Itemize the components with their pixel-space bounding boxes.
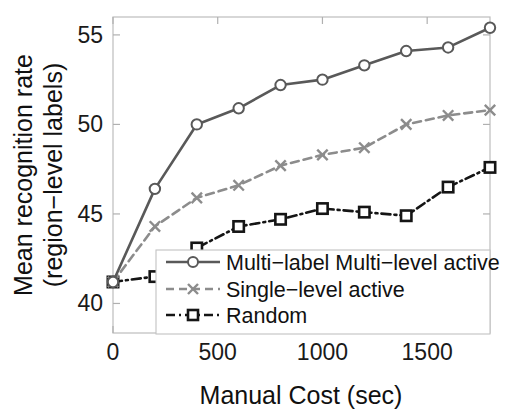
circle-marker [192, 119, 202, 129]
circle-marker [108, 277, 118, 287]
y-axis-tick-labels: 40455055 [77, 22, 103, 317]
circle-marker [485, 23, 495, 33]
circle-marker [317, 74, 327, 84]
y-axis-title-line-2: (region−level labels) [39, 63, 67, 287]
legend-label: Random [226, 304, 307, 328]
circle-marker [150, 184, 160, 194]
line-chart: 40455055 050010001500 Manual Cost (sec) … [0, 0, 518, 413]
circle-marker [443, 42, 453, 52]
y-tick-label: 55 [77, 22, 103, 48]
square-marker [233, 221, 243, 231]
y-tick-label: 50 [77, 111, 103, 137]
square-marker [359, 207, 369, 217]
circle-marker [359, 60, 369, 70]
circle-marker [275, 80, 285, 90]
square-marker [443, 182, 453, 192]
x-axis-tick-labels: 050010001500 [107, 339, 453, 365]
square-marker [188, 310, 198, 320]
x-tick-label: 1000 [297, 339, 348, 365]
square-marker [485, 162, 495, 172]
y-axis-title-line-1: Mean recognition rate [9, 54, 37, 296]
chart-legend: Multi−label Multi−level activeSingle−lev… [156, 250, 500, 334]
x-axis-title: Manual Cost (sec) [200, 381, 403, 409]
circle-marker [401, 46, 411, 56]
x-tick-label: 0 [107, 339, 120, 365]
square-marker [317, 203, 327, 213]
x-tick-label: 500 [199, 339, 237, 365]
y-tick-label: 45 [77, 201, 103, 227]
x-tick-label: 1500 [402, 339, 453, 365]
square-marker [275, 214, 285, 224]
circle-marker [233, 103, 243, 113]
circle-marker [188, 257, 198, 267]
legend-label: Multi−label Multi−level active [226, 251, 500, 275]
square-marker [401, 211, 411, 221]
legend-label: Single−level active [226, 278, 405, 302]
y-tick-label: 40 [77, 290, 103, 316]
chart-figure: 40455055 050010001500 Manual Cost (sec) … [0, 0, 518, 413]
